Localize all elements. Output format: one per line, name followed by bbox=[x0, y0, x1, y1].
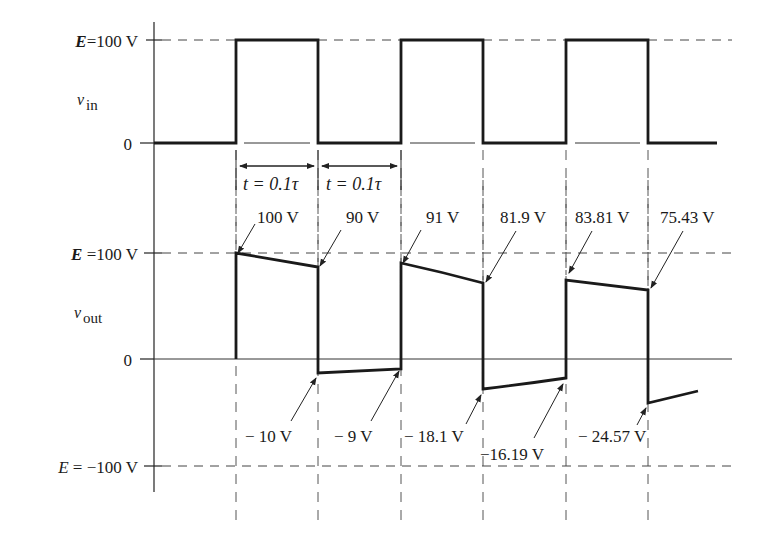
vout-axis-label-sub: out bbox=[83, 310, 103, 326]
annotation-neg-10v: − 10 V bbox=[245, 427, 293, 446]
waveform-diagram: E=100 V E = 100 V 0 v in t = 0.1τ t = 0.… bbox=[0, 0, 768, 558]
interval-guides bbox=[236, 150, 648, 524]
annotation-75-43v: 75.43 V bbox=[660, 208, 715, 227]
vin-plot bbox=[140, 40, 732, 143]
bottom-annotations: − 10 V − 9 V − 18.1 V −16.19 V − 24.57 V bbox=[245, 371, 647, 464]
vin-waveform bbox=[154, 40, 717, 143]
annotation-neg-24-57v: − 24.57 V bbox=[578, 427, 647, 446]
vin-axis-label: v bbox=[77, 91, 85, 108]
vout-tick-low-label: E = −100 V bbox=[57, 458, 139, 477]
annotation-81-9v: 81.9 V bbox=[500, 208, 547, 227]
vout-axis-label: v bbox=[74, 304, 82, 321]
vin-tick-high-label: E=100 V bbox=[74, 32, 138, 51]
annotation-neg-18-1v: − 18.1 V bbox=[404, 427, 465, 446]
interval-label-1: t = 0.1τ bbox=[243, 174, 299, 194]
vout-tick-high-label: E =100 V bbox=[70, 245, 139, 264]
annotation-91v: 91 V bbox=[426, 208, 460, 227]
annotation-neg-16-19v: −16.19 V bbox=[480, 445, 545, 464]
annotation-83-81v: 83.81 V bbox=[575, 208, 630, 227]
vout-tick-zero-label: 0 bbox=[124, 351, 133, 370]
top-annotations: 100 V 90 V 91 V 81.9 V 83.81 V 75.43 V bbox=[238, 208, 715, 288]
vout-waveform bbox=[236, 253, 698, 403]
annotation-neg-9v: − 9 V bbox=[334, 427, 373, 446]
annotation-90v: 90 V bbox=[346, 208, 380, 227]
vin-tick-zero-label: 0 bbox=[124, 135, 133, 154]
vin-axis-label-sub: in bbox=[86, 97, 98, 113]
annotation-100v: 100 V bbox=[257, 208, 299, 227]
interval-label-2: t = 0.1τ bbox=[326, 174, 382, 194]
